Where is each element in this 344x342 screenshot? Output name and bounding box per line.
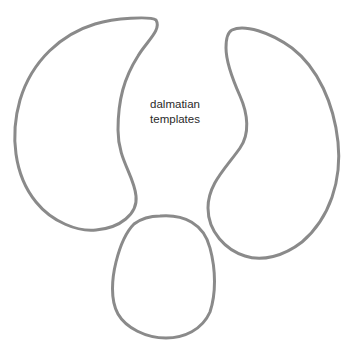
right-ear-template-outline <box>208 28 339 258</box>
template-shapes <box>0 0 344 342</box>
template-canvas: dalmatian templates <box>0 0 344 342</box>
caption-line-1: dalmatian <box>130 97 220 112</box>
caption-line-2: templates <box>130 112 220 127</box>
nose-template-outline <box>113 216 215 338</box>
template-caption: dalmatian templates <box>130 97 220 127</box>
